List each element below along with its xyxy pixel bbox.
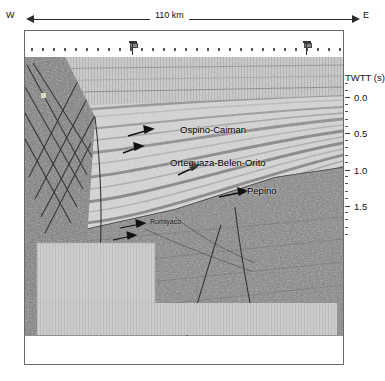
time-tick-minor	[345, 90, 348, 91]
shotpoint-tick	[284, 48, 286, 51]
time-tick-minor	[345, 198, 348, 199]
shotpoint-tick	[229, 48, 231, 51]
time-tick-minor	[345, 191, 348, 192]
time-tick-minor	[345, 111, 348, 112]
shotpoint-tick	[108, 48, 110, 51]
time-tick-label: 0.0	[354, 92, 367, 103]
time-tick-minor	[345, 140, 348, 141]
west-label: W	[6, 10, 15, 20]
shotpoint-tick	[185, 48, 187, 51]
shotpoint-tick	[141, 48, 143, 51]
time-tick-minor	[345, 104, 348, 105]
arrow-east-icon	[352, 15, 360, 23]
scale-bar-line	[28, 19, 358, 20]
time-tick-major	[345, 133, 350, 134]
shotpoint-tick	[240, 48, 242, 51]
well-stem-icon	[306, 43, 307, 55]
shotpoint-tick	[295, 48, 297, 51]
label-pepino: Pepino	[247, 185, 277, 196]
label-rumiyaco: Rumiyaco	[150, 218, 181, 225]
time-tick-minor	[345, 212, 348, 213]
time-tick-minor	[345, 176, 348, 177]
shotpoint-tick	[86, 48, 88, 51]
east-label: E	[363, 10, 369, 20]
well-stem-icon	[132, 43, 133, 55]
time-tick-minor	[345, 234, 348, 235]
time-tick-minor	[345, 126, 348, 127]
time-tick-major	[345, 97, 350, 98]
shotpoint-tick	[218, 48, 220, 51]
time-tick-minor	[345, 227, 348, 228]
shotpoint-tick	[174, 48, 176, 51]
scale-bar: W 110 km E	[0, 8, 380, 28]
time-tick-major	[345, 206, 350, 207]
time-tick-minor	[345, 162, 348, 163]
shotpoint-tick	[251, 48, 253, 51]
shotpoint-tick	[119, 48, 121, 51]
time-tick-minor	[345, 83, 348, 84]
seismic-section	[25, 57, 343, 336]
time-tick-minor	[345, 147, 348, 148]
shotpoint-tick	[163, 48, 165, 51]
muted-data-block	[37, 243, 155, 303]
shotpoint-tick	[42, 48, 44, 51]
shotpoint-tick	[75, 48, 77, 51]
bottom-muted-strip	[37, 303, 337, 335]
shotpoint-tick	[273, 48, 275, 51]
time-tick-minor	[345, 155, 348, 156]
time-axis: 0.00.51.01.5	[345, 57, 380, 237]
time-tick-label: 1.0	[354, 165, 367, 176]
shotpoint-tick	[207, 48, 209, 51]
time-tick-minor	[345, 183, 348, 184]
time-tick-minor	[345, 119, 348, 120]
time-tick-minor	[345, 219, 348, 220]
scale-bar-label: 110 km	[150, 10, 189, 20]
label-ospino-caiman: Ospino-Caiman	[180, 124, 246, 135]
shotpoint-strip	[25, 40, 343, 58]
seismic-canvas	[25, 57, 343, 336]
time-tick-major	[345, 170, 350, 171]
label-orteguaza-belen-orito: Orteguaza-Belen-Orito	[170, 157, 266, 168]
time-tick-label: 0.5	[354, 128, 367, 139]
shotpoint-tick	[328, 48, 330, 51]
shotpoint-tick	[262, 48, 264, 51]
shotpoint-tick	[152, 48, 154, 51]
shotpoint-tick	[317, 48, 319, 51]
shotpoint-tick	[339, 48, 341, 51]
shotpoint-tick	[196, 48, 198, 51]
shotpoint-tick	[53, 48, 55, 51]
shotpoint-tick	[64, 48, 66, 51]
time-tick-minor	[345, 75, 348, 76]
shotpoint-tick	[97, 48, 99, 51]
time-tick-label: 1.5	[354, 201, 367, 212]
shotpoint-tick	[31, 48, 33, 51]
